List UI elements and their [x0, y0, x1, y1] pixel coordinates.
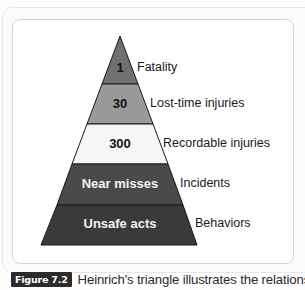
tier-value-lost-time: 30: [113, 96, 127, 111]
tier-label-behaviors: Behaviors: [195, 216, 251, 230]
caption-text: Heinrich's triangle illustrates the rela…: [78, 272, 305, 287]
tier-label-fatality: Fatality: [137, 60, 177, 74]
figure-caption: Figure 7.2 Heinrich's triangle illustrat…: [11, 271, 305, 287]
tier-value-fatality: 1: [116, 60, 123, 75]
tier-label-recordable: Recordable injuries: [163, 136, 270, 150]
tier-value-incidents: Near misses: [82, 176, 159, 191]
tier-label-lost-time: Lost-time injuries: [150, 96, 244, 110]
tier-value-recordable: 300: [109, 136, 131, 151]
tier-label-incidents: Incidents: [180, 176, 230, 190]
figure-number-badge: Figure 7.2: [11, 272, 72, 287]
tier-value-behaviors: Unsafe acts: [84, 216, 157, 231]
